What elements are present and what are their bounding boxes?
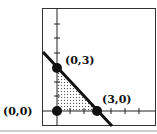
- label-0-0: (0,0): [3, 105, 33, 118]
- point-0-3: [52, 63, 62, 73]
- label-3-0: (3,0): [102, 93, 132, 106]
- point-0-0: [52, 106, 62, 116]
- label-0-3: (0,3): [65, 54, 95, 67]
- feasible-region-diagram: (0,3) (0,0) (3,0): [0, 0, 157, 134]
- point-3-0: [92, 106, 102, 116]
